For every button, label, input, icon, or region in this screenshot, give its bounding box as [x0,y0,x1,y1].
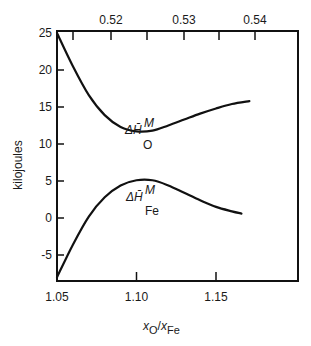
x-tick-label: 1.15 [204,290,228,304]
plot-frame [57,31,298,281]
curve-label-fe: ΔH̄ M Fe [125,183,159,218]
svg-text:ΔH̄: ΔH̄ [124,123,142,137]
svg-text:O: O [143,138,152,152]
y-axis-title: kilojoules [11,140,25,189]
svg-text:ΔH̄: ΔH̄ [125,190,143,204]
top-axis: 0.520.530.54 [73,13,267,40]
x-axis: 1.051.101.15 [45,272,228,304]
top-tick-label: 0.53 [172,13,196,27]
x-tick-label: 1.10 [125,290,149,304]
top-tick-label: 0.52 [99,13,123,27]
y-tick-label: 15 [39,100,53,114]
svg-text:M: M [144,116,154,130]
y-tick-label: 0 [45,211,52,225]
x-axis-title: xO/xFe [142,319,180,336]
svg-text:M: M [145,183,155,197]
y-tick-label: 25 [39,26,53,40]
svg-text:Fe: Fe [145,204,159,218]
x-tick-label: 1.05 [45,290,69,304]
y-tick-label: 5 [45,174,52,188]
chart: 2520151050-5 1.051.101.15 0.520.530.54 Δ… [0,0,311,346]
top-tick-label: 0.54 [243,13,267,27]
curve-label-o: ΔH̄ M O [124,116,154,152]
y-tick-label: -5 [41,248,52,262]
y-tick-label: 10 [39,137,53,151]
svg-text:xO/xFe: xO/xFe [142,319,180,336]
curves [57,33,249,277]
y-tick-label: 20 [39,63,53,77]
y-axis: 2520151050-5 [39,26,64,262]
